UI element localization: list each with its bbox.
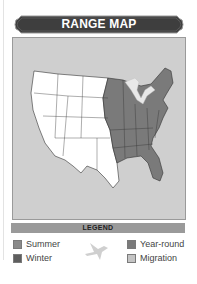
- legend-item-winter: Winter: [13, 253, 52, 263]
- range-map: [12, 37, 186, 220]
- migration-swatch: [127, 254, 136, 263]
- legend-item-year-round: Year-round: [127, 239, 184, 249]
- year-round-swatch: [127, 240, 136, 249]
- legend-label: Migration: [140, 253, 177, 263]
- page-title: RANGE MAP: [13, 15, 185, 34]
- bird-silhouette-icon: [82, 240, 112, 264]
- legend-item-migration: Migration: [127, 253, 177, 263]
- range-map-header: RANGE MAP: [13, 15, 185, 34]
- legend-title: LEGEND: [11, 223, 185, 233]
- summer-swatch: [13, 240, 22, 249]
- legend-label: Winter: [26, 253, 52, 263]
- legend-label: Summer: [26, 239, 60, 249]
- winter-swatch: [13, 254, 22, 263]
- us-map-graphic: [13, 38, 187, 221]
- legend-item-summer: Summer: [13, 239, 60, 249]
- page-edge-rule: [3, 0, 4, 260]
- legend-label: Year-round: [140, 239, 184, 249]
